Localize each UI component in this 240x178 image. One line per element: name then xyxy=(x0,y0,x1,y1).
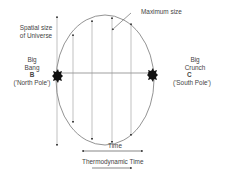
big-crunch-letter: C xyxy=(187,71,192,79)
time-label: Time xyxy=(90,142,140,150)
y-axis-label: Spatial size of Universe xyxy=(10,24,62,39)
big-bang-word2: Bang xyxy=(10,64,54,72)
big-bang-letter: B xyxy=(10,71,54,79)
big-bang-pole: ('North Pole') xyxy=(10,79,54,87)
big-bang-word1: Big xyxy=(10,56,54,64)
maximum-size-label: Maximum size xyxy=(141,8,182,16)
y-axis-label-line1: Spatial size xyxy=(10,24,62,32)
big-crunch-label: Big Crunch xyxy=(180,56,210,71)
big-crunch-pole: ('South Pole') xyxy=(173,79,211,87)
thermodynamic-time-label: Thermodynamic Time xyxy=(82,158,143,166)
universe-ellipse xyxy=(56,15,154,145)
big-crunch-word2: Crunch xyxy=(180,64,210,72)
big-crunch-icon xyxy=(147,68,158,82)
big-crunch-word1: Big xyxy=(180,56,210,64)
big-bang-label: Big Bang B ('North Pole') xyxy=(10,56,54,86)
y-axis-label-line2: of Universe xyxy=(10,32,62,40)
maximum-pointer xyxy=(112,13,131,30)
